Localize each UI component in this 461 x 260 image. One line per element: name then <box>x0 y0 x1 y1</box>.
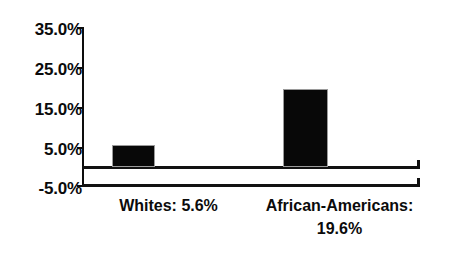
x-axis-line <box>82 184 420 187</box>
bar-chart: 35.0% 25.0% 15.0% 5.0% -5.0% Whites: 5.6… <box>0 0 461 260</box>
zero-baseline-end-cap <box>417 160 420 169</box>
y-axis-tick-label-neg5: -5.0% <box>8 180 82 197</box>
category-label-african-americans: African-Americans: 19.6% <box>232 194 447 240</box>
y-axis-tick-15 <box>77 107 84 109</box>
y-axis-tick-label-35: 35.0% <box>8 21 82 38</box>
y-axis-tick-35 <box>77 27 84 29</box>
bar-african-americans <box>283 89 328 167</box>
y-axis-tick-label-15: 15.0% <box>8 101 82 118</box>
x-axis-end-cap <box>417 178 420 187</box>
y-axis-tick-25 <box>77 67 84 69</box>
y-axis-tick-label-5: 5.0% <box>8 141 82 158</box>
bar-whites <box>112 145 155 167</box>
y-axis-tick-5 <box>77 147 84 149</box>
y-axis-tick-label-25: 25.0% <box>8 61 82 78</box>
